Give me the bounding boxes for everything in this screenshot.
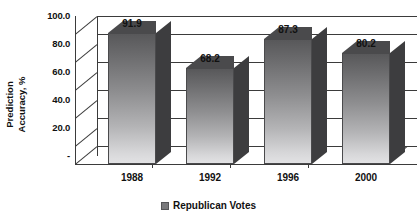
legend-label-republican-votes: Republican Votes	[173, 200, 256, 211]
bar-2000-front-face	[342, 53, 390, 164]
depth-line-20	[75, 128, 98, 147]
y-tick-label-80: 80.0	[22, 38, 70, 49]
bar-1996-front-face	[264, 39, 312, 164]
legend-swatch-icon	[161, 202, 169, 210]
bar-1996-side-face	[312, 27, 327, 164]
bar-1988-front-face	[108, 33, 156, 164]
y-axis-label: Prediction Accuracy, %	[2, 46, 28, 166]
bar-2000[interactable]	[342, 53, 390, 164]
data-label-1996: 87.3	[264, 24, 312, 35]
bar-1992-front-face	[186, 68, 234, 164]
y-tick-label-60: 60.0	[22, 66, 70, 77]
x-axis-tick-1	[152, 164, 153, 168]
data-label-2000: 80.2	[342, 38, 390, 49]
back-wall-top-line	[97, 16, 417, 17]
bar-1988-side-face	[156, 21, 171, 164]
bar-1996[interactable]	[264, 39, 312, 164]
y-tick-label-0: -	[22, 150, 70, 161]
x-axis-tick-2	[230, 164, 231, 168]
chart-container: Prediction Accuracy, % 100.0 80.0 60.0 4…	[0, 0, 417, 217]
back-wall-left-edge	[97, 16, 98, 156]
y-tick-label-40: 40.0	[22, 94, 70, 105]
x-tick-label-2000: 2000	[338, 172, 394, 183]
depth-line-40	[75, 100, 98, 119]
data-label-1992: 68.2	[186, 53, 234, 64]
y-axis-label-line1: Prediction	[4, 45, 16, 165]
chart-legend: Republican Votes	[0, 200, 417, 211]
depth-line-80	[75, 44, 98, 63]
depth-line-60	[75, 72, 98, 91]
bar-1992-side-face	[234, 56, 249, 164]
depth-line-100	[75, 16, 98, 35]
x-axis-tick-3	[308, 164, 309, 168]
x-tick-label-1996: 1996	[260, 172, 316, 183]
bar-1988[interactable]	[108, 33, 156, 164]
y-tick-label-100: 100.0	[22, 10, 70, 21]
bar-1992[interactable]	[186, 68, 234, 164]
x-tick-label-1988: 1988	[104, 172, 160, 183]
y-tick-label-20: 20.0	[22, 122, 70, 133]
data-label-1988: 91.9	[108, 18, 156, 29]
x-axis-line	[75, 164, 417, 165]
depth-line-0	[75, 146, 98, 165]
bar-2000-side-face	[390, 41, 405, 164]
x-tick-label-1992: 1992	[182, 172, 238, 183]
